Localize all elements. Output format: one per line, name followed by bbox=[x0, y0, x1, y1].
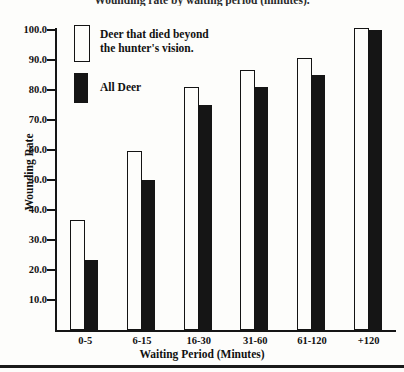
legend-swatch-dark bbox=[74, 73, 88, 103]
y-axis-title: Wounding Rate bbox=[23, 112, 35, 232]
y-tick-label: 100.0 bbox=[3, 25, 47, 35]
bar-light bbox=[184, 87, 199, 331]
chart-title-clipped: Wounding rate by waiting period (minutes… bbox=[0, 0, 404, 6]
bar-group bbox=[297, 30, 325, 330]
x-axis-line bbox=[55, 330, 396, 332]
bar-light bbox=[297, 58, 312, 330]
bar-dark bbox=[255, 87, 268, 330]
x-tick-label: 31-60 bbox=[225, 335, 285, 346]
legend-swatch-light bbox=[74, 25, 90, 62]
plot-area bbox=[56, 30, 396, 330]
y-tick-label: 30.0 bbox=[3, 235, 47, 245]
bar-group bbox=[127, 30, 155, 330]
chart-figure: Wounding rate by waiting period (minutes… bbox=[0, 0, 404, 372]
bar-dark bbox=[312, 75, 325, 330]
chart-title: Wounding rate by waiting period (minutes… bbox=[0, 0, 404, 6]
y-tick-label: 80.0 bbox=[3, 85, 47, 95]
x-tick-label: 61-120 bbox=[282, 335, 342, 346]
bar-group bbox=[240, 30, 268, 330]
x-tick-label: +120 bbox=[339, 335, 399, 346]
x-tick-label: 0-5 bbox=[55, 335, 115, 346]
x-tick-label: 16-30 bbox=[169, 335, 229, 346]
x-axis-title: Waiting Period (Minutes) bbox=[0, 348, 404, 360]
bar-light bbox=[127, 151, 142, 330]
bar-group bbox=[354, 30, 382, 330]
y-tick-label: 10.0 bbox=[3, 295, 47, 305]
bar-dark bbox=[199, 105, 212, 330]
bar-dark bbox=[85, 260, 98, 331]
legend-label-light: Deer that died beyond the hunter's visio… bbox=[100, 28, 209, 55]
bar-light bbox=[240, 70, 255, 330]
y-tick-label: 20.0 bbox=[3, 265, 47, 275]
legend-label-dark: All Deer bbox=[100, 81, 141, 95]
x-tick-label: 6-15 bbox=[112, 335, 172, 346]
bar-dark bbox=[142, 180, 155, 330]
footer-rule bbox=[0, 365, 404, 368]
bar-group bbox=[184, 30, 212, 330]
bar-light bbox=[354, 28, 369, 330]
bar-dark bbox=[369, 30, 382, 330]
y-tick-label: 90.0 bbox=[3, 55, 47, 65]
bar-light bbox=[70, 220, 85, 330]
